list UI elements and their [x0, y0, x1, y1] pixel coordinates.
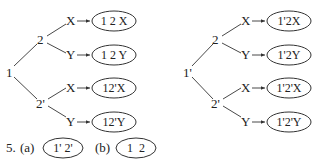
part-b-label: (b) [95, 140, 110, 155]
edge-2prime-y [48, 106, 66, 117]
result-12primey: 12'Y [103, 115, 126, 129]
node-2prime: 2' [36, 96, 45, 111]
edge-1-2prime [14, 77, 37, 99]
result-1prime2x: 1'2X [278, 14, 301, 28]
leaf-label-x: X [241, 80, 251, 95]
part-b-value: 1 2 [127, 141, 145, 155]
edge-1-2 [14, 44, 37, 66]
node-2: 2 [212, 32, 219, 47]
leaf-label-y: Y [66, 47, 76, 62]
edge-2-y [222, 43, 241, 53]
leaf-label-y: Y [241, 47, 251, 62]
edge-2-x [47, 24, 66, 36]
answer-row: 5. (a) 1' 2' (b) 1 2 [6, 138, 156, 158]
result-1prime2y: 1'2Y [278, 48, 301, 62]
result-1prime2primex: 1'2'X [277, 81, 302, 95]
edge-2-x [222, 24, 241, 36]
left-tree: 1 2 2' X Y X Y 1 2 X 1 2 Y 12'X 12'Y [6, 11, 136, 132]
leaf-label-y: Y [66, 114, 76, 129]
result-12x: 1 2 X [101, 14, 128, 28]
part-a-value: 1' 2' [53, 141, 72, 155]
edge-2prime-y [223, 106, 241, 117]
edge-2prime-x [48, 88, 66, 99]
leaf-label-x: X [241, 13, 251, 28]
leaf-label-x: X [66, 13, 76, 28]
right-tree: 1' 2 2' X Y X Y 1'2X 1'2Y 1'2'X 1'2'Y [183, 11, 311, 132]
node-2prime: 2' [211, 96, 220, 111]
question-number: 5. [6, 140, 16, 155]
leaf-label-y: Y [241, 114, 251, 129]
part-a-label: (a) [20, 140, 34, 155]
root-node-1prime: 1' [183, 65, 192, 80]
result-12y: 1 2 Y [101, 48, 128, 62]
edge-2prime-x [223, 88, 241, 99]
edge-1prime-2 [192, 44, 213, 66]
result-1prime2primey: 1'2'Y [277, 115, 302, 129]
edge-1prime-2prime [192, 77, 213, 99]
edge-2-y [47, 43, 66, 53]
leaf-label-x: X [66, 80, 76, 95]
node-2: 2 [37, 32, 44, 47]
root-node-1: 1 [6, 65, 13, 80]
tree-diagram: 1 2 2' X Y X Y 1 2 X 1 2 Y 12'X 12'Y 1' … [0, 0, 316, 164]
result-12primex: 12'X [103, 81, 126, 95]
